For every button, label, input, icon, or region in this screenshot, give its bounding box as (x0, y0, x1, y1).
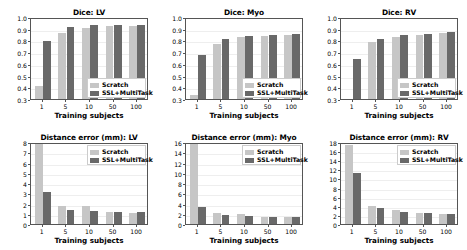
y-tick-label: 0.9 (8, 26, 27, 33)
chart-title-dice-lv: Dice: LV (30, 8, 148, 17)
bar-dist-lv-scratch-1 (35, 143, 43, 224)
y-tick-mark (338, 179, 340, 180)
y-tick-mark (338, 161, 340, 162)
y-tick-mark (183, 88, 185, 89)
gridline (31, 185, 147, 186)
bar-dist-myo-scratch-50 (261, 217, 269, 224)
y-tick-mark (183, 153, 185, 154)
y-tick-mark (28, 77, 30, 78)
legend-swatch-ssl (400, 91, 409, 96)
y-tick-mark (28, 100, 30, 101)
y-tick-mark (28, 88, 30, 89)
bar-dist-rv-ssl-50 (424, 213, 432, 224)
x-axis-label-dice-rv: Training subjects (340, 111, 458, 120)
y-tick-mark (338, 207, 340, 208)
y-tick-mark (338, 189, 340, 190)
x-tick-mark (65, 100, 66, 102)
x-tick-mark (399, 100, 400, 102)
chart-title-dice-myo: Dice: Myo (185, 8, 303, 17)
bar-dist-lv-ssl-100 (137, 212, 145, 224)
y-tick-mark (338, 100, 340, 101)
y-tick-label: 0.8 (8, 38, 27, 45)
x-tick-label: 10 (240, 103, 248, 110)
y-tick-mark (183, 18, 185, 19)
y-tick-mark (338, 143, 340, 144)
bar-dice-lv-scratch-1 (35, 86, 43, 99)
y-tick-label: 1.0 (163, 15, 182, 22)
y-tick-mark (338, 198, 340, 199)
x-tick-label: 100 (285, 228, 297, 235)
bar-dice-lv-ssl-1 (43, 41, 51, 99)
legend-label-scratch: Scratch (257, 81, 283, 89)
legend-swatch-scratch (90, 83, 99, 88)
bar-dist-rv-scratch-5 (368, 206, 376, 224)
y-tick-mark (28, 174, 30, 175)
gridline (31, 175, 147, 176)
legend-item-scratch: Scratch (245, 148, 297, 156)
y-tick-label: 0.4 (318, 85, 337, 92)
x-tick-label: 1 (40, 103, 44, 110)
y-tick-label: 0.4 (8, 85, 27, 92)
bar-dist-lv-ssl-10 (90, 211, 98, 224)
y-tick-mark (183, 143, 185, 144)
y-tick-mark (183, 41, 185, 42)
y-tick-label: 0.3 (8, 97, 27, 104)
x-tick-label: 10 (395, 103, 403, 110)
chart-title-dist-myo: Distance error (mm): Myo (185, 133, 303, 142)
y-tick-mark (338, 88, 340, 89)
y-tick-mark (183, 205, 185, 206)
legend-dist-myo: ScratchSSL+MultiTask (242, 145, 301, 165)
legend-swatch-ssl (245, 91, 254, 96)
y-tick-label: 4 (163, 201, 182, 208)
gridline (186, 31, 302, 32)
y-tick-mark (28, 153, 30, 154)
y-tick-mark (183, 225, 185, 226)
legend-item-scratch: Scratch (400, 81, 452, 89)
legend-item-scratch: Scratch (90, 148, 142, 156)
legend-swatch-ssl (245, 158, 254, 163)
legend-swatch-ssl (400, 158, 409, 163)
y-tick-label: 0 (163, 222, 182, 229)
legend-item-scratch: Scratch (245, 81, 297, 89)
y-tick-label: 0.5 (8, 73, 27, 80)
legend-label-scratch: Scratch (102, 148, 128, 156)
y-tick-label: 18 (318, 140, 337, 147)
y-tick-mark (338, 152, 340, 153)
y-tick-mark (28, 194, 30, 195)
gridline (186, 175, 302, 176)
bar-dist-myo-scratch-1 (190, 143, 198, 224)
x-tick-mark (352, 225, 353, 227)
y-tick-mark (28, 215, 30, 216)
y-tick-mark (183, 184, 185, 185)
bar-dist-lv-ssl-5 (67, 210, 75, 224)
legend-swatch-ssl (90, 91, 99, 96)
x-tick-mark (197, 100, 198, 102)
x-tick-mark (291, 225, 292, 227)
legend-swatch-scratch (400, 83, 409, 88)
y-tick-label: 0.5 (318, 73, 337, 80)
bar-dice-rv-scratch-5 (368, 42, 376, 99)
bar-dist-myo-ssl-10 (245, 216, 253, 224)
y-tick-label: 0.3 (318, 97, 337, 104)
bar-dice-lv-ssl-5 (67, 27, 75, 99)
y-tick-label: 0 (8, 222, 27, 229)
x-axis-label-dist-rv: Training subjects (340, 236, 458, 245)
y-tick-label: 0.6 (318, 61, 337, 68)
bar-dist-myo-ssl-5 (222, 215, 230, 224)
legend-label-ssl: SSL+MultiTask (412, 89, 463, 97)
y-tick-mark (338, 170, 340, 171)
x-tick-label: 100 (130, 103, 142, 110)
y-tick-label: 14 (318, 158, 337, 165)
y-tick-mark (28, 53, 30, 54)
legend-label-scratch: Scratch (102, 81, 128, 89)
x-tick-mark (89, 225, 90, 227)
bar-dist-lv-ssl-1 (43, 192, 51, 224)
y-tick-mark (183, 164, 185, 165)
y-tick-label: 5 (8, 170, 27, 177)
y-tick-label: 16 (163, 140, 182, 147)
legend-dice-rv: ScratchSSL+MultiTask (397, 78, 456, 98)
x-tick-label: 5 (373, 228, 377, 235)
y-tick-label: 0.3 (163, 97, 182, 104)
bar-dist-rv-scratch-1 (345, 145, 353, 224)
y-tick-mark (338, 41, 340, 42)
